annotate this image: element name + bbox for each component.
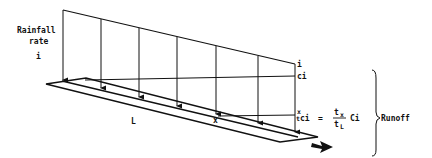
catchment-plane	[46, 78, 318, 142]
top-right-i-label: i	[297, 59, 302, 69]
svg-text:Ci: Ci	[350, 113, 360, 123]
rainfall-runoff-diagram: Rainfall rate i L x i ci x t ci = t x t …	[0, 0, 432, 158]
svg-text:L: L	[340, 123, 344, 131]
rainfall-top-line	[63, 10, 295, 64]
rate-label: rate	[29, 37, 48, 46]
outflow-arrow-icon	[311, 141, 333, 153]
ci-label: ci	[297, 71, 307, 81]
rainfall-symbol: i	[36, 51, 41, 61]
svg-text:t: t	[334, 108, 339, 117]
length-label: L	[131, 117, 136, 126]
runoff-equation: x t ci = t x t L Ci	[296, 108, 360, 131]
point-x-label: x	[213, 116, 218, 125]
svg-text:t: t	[334, 120, 339, 129]
rainfall-arrows	[63, 10, 295, 132]
rainfall-label: Rainfall	[17, 25, 56, 35]
svg-text:ci: ci	[300, 113, 310, 123]
runoff-label: Runoff	[381, 114, 410, 123]
svg-text:=: =	[318, 114, 323, 123]
ci-line	[85, 76, 295, 80]
runoff-brace	[372, 70, 380, 156]
